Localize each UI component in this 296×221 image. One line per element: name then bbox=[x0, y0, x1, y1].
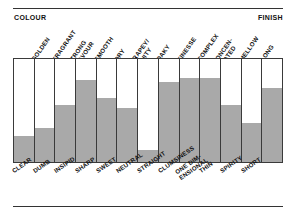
colour-axis-caption: COLOUR bbox=[14, 14, 46, 21]
top-divider-rule bbox=[13, 8, 283, 9]
finish-axis-caption: FINISH bbox=[258, 14, 283, 21]
bar-chart-plot-area bbox=[13, 58, 283, 163]
wine-tasting-chart-figure: COLOUR FINISH GOLDENFRAGRANTSTRONGFLAVOU… bbox=[0, 0, 296, 221]
bar-fill bbox=[35, 128, 55, 162]
bar-fill bbox=[76, 80, 96, 162]
bar-column bbox=[76, 59, 97, 162]
bar-column bbox=[55, 59, 76, 162]
bar-column bbox=[159, 59, 180, 162]
bar-fill bbox=[262, 88, 282, 162]
bar-column bbox=[221, 59, 242, 162]
bar-column bbox=[14, 59, 35, 162]
bar-fill bbox=[97, 98, 117, 162]
bottom-divider-rule bbox=[13, 206, 283, 207]
bar-fill bbox=[55, 105, 75, 162]
bar-column bbox=[138, 59, 159, 162]
bar-column bbox=[35, 59, 56, 162]
bar-column bbox=[97, 59, 118, 162]
bar-column bbox=[262, 59, 282, 162]
bar-column bbox=[117, 59, 138, 162]
bar-fill bbox=[200, 78, 220, 162]
bar-column bbox=[242, 59, 263, 162]
bar-column bbox=[200, 59, 221, 162]
